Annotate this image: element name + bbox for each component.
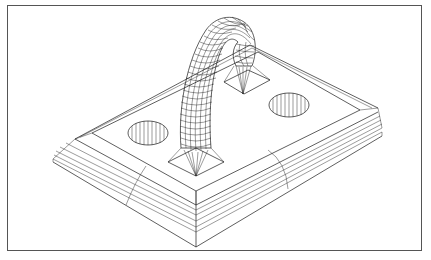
rear-boss xyxy=(224,66,270,94)
right-hole xyxy=(269,93,309,117)
front-boss xyxy=(168,148,224,176)
base-plate xyxy=(53,45,382,247)
left-hole xyxy=(128,121,168,145)
drawing-canvas xyxy=(0,0,431,260)
front-left-bands xyxy=(53,133,196,247)
isometric-drawing xyxy=(0,0,431,260)
handle xyxy=(180,17,255,151)
